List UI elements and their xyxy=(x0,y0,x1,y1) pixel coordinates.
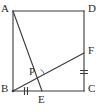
dot-b xyxy=(12,90,15,93)
label-point-a: A xyxy=(1,3,9,14)
label-point-b: B xyxy=(1,83,8,94)
segment-bf xyxy=(13,53,84,91)
geometry-figure: A D B C F E P xyxy=(0,0,104,112)
square-abcd xyxy=(13,11,84,91)
label-point-c: C xyxy=(88,83,95,94)
geometry-canvas xyxy=(0,0,104,112)
cevian-lines xyxy=(13,11,84,91)
angle-arc-at-p xyxy=(41,70,45,75)
label-point-d: D xyxy=(88,3,96,14)
label-point-f: F xyxy=(88,45,94,56)
segment-ae xyxy=(13,11,42,91)
label-point-e: E xyxy=(38,94,45,105)
label-point-p: P xyxy=(29,66,35,77)
vertex-dots xyxy=(12,90,15,93)
